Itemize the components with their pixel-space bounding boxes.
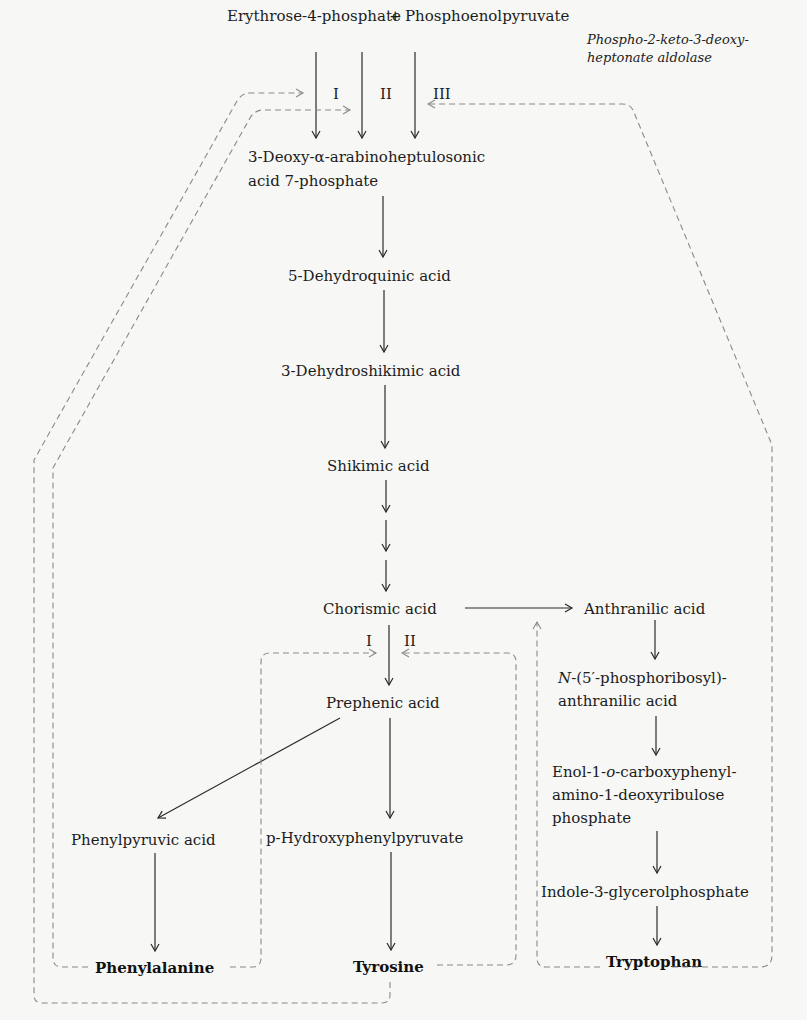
enzyme-label-line1: Phospho-2-keto-3-deoxy- [586,32,749,47]
isozyme-ii-label: II [380,85,392,103]
feedback-tryptophan-to-isozyme-iii [428,104,772,967]
cdrp-line2: amino-1-deoxyribulose [552,786,725,804]
shikimate-pathway-diagram: Erythrose-4-phosphate + Phosphoenolpyruv… [0,0,807,1020]
chorismic-acid-label: Chorismic acid [323,600,437,618]
isozyme-i-label: I [333,85,339,103]
isozyme-iii-label: III [433,85,451,103]
feedback-tyrosine-to-isozyme-i [34,93,390,1003]
shikimic-acid-label: Shikimic acid [327,457,430,475]
plus-sign: + [389,7,402,25]
dahp-line1: 3-Deoxy-α-arabinoheptulosonic [248,148,485,166]
phenylpyruvic-acid-label: Phenylpyruvic acid [71,831,216,849]
enzyme-label-line2: heptonate aldolase [587,50,712,65]
pra-line1: N-(5′-phosphoribosyl)- [557,669,727,687]
dehydroshikimic-acid-label: 3-Dehydroshikimic acid [281,362,461,380]
dahp-line2: acid 7-phosphate [248,172,378,190]
phenylalanine-label: Phenylalanine [95,959,214,977]
chorismate-mutase-i-label: I [366,632,372,650]
cdrp-line1b: o [606,763,615,781]
cdrp-line1a: Enol-1- [552,763,606,781]
phosphoenolpyruvate-label: Phosphoenolpyruvate [405,7,569,25]
dehydroquinic-acid-label: 5-Dehydroquinic acid [288,267,451,285]
enzyme-label: Phospho-2-keto-3-deoxy- heptonate aldola… [586,32,749,65]
pra-line2: anthranilic acid [558,692,678,710]
substrates-row: Erythrose-4-phosphate + Phosphoenolpyruv… [227,7,569,25]
pra-line1-text: -(5′-phosphoribosyl)- [571,669,727,687]
erythrose-4-phosphate-label: Erythrose-4-phosphate [227,7,401,25]
igp-label: Indole-3-glycerolphosphate [541,883,749,901]
tyrosine-label: Tyrosine [353,958,424,976]
anthranilic-acid-label: Anthranilic acid [583,600,706,618]
chorismate-mutase-ii-label: II [404,632,416,650]
cdrp-line1: Enol-1-o-carboxyphenyl- [552,763,736,781]
arrow-prephenate-to-phenylpyruvate [158,718,340,818]
prephenic-acid-label: Prephenic acid [326,694,440,712]
pra-n-prefix: N [557,669,572,687]
cdrp-line3: phosphate [552,809,631,827]
tryptophan-label: Tryptophan [606,953,702,971]
p-hydroxyphenylpyruvate-label: p-Hydroxyphenylpyruvate [266,829,463,847]
cdrp-line1c: -carboxyphenyl- [615,763,736,781]
